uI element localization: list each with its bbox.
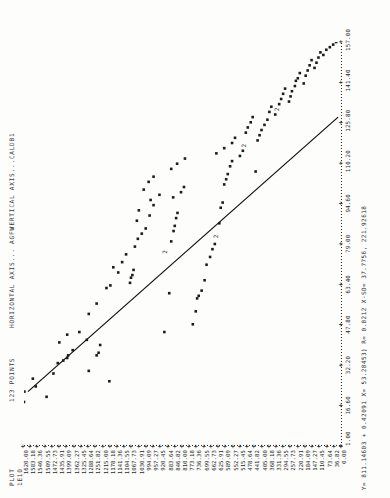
data-point [32,377,35,380]
data-point [34,385,37,388]
x-tick-label: 16.60 [345,396,351,414]
data-point [109,284,112,287]
y-tick-label: 1472.73 [53,450,59,474]
y-tick-label: 736.36 [197,450,203,471]
data-point [223,183,226,186]
y-tick-label: 1509.55 [46,450,52,474]
data-point [170,168,173,171]
data-point [231,160,234,163]
y-tick-mark: + [93,444,98,448]
data-point [288,100,291,103]
data-point [203,279,206,282]
point-count-label: 123 POINTS [8,358,15,402]
y-tick-label: 1362.27 [75,450,81,474]
data-point [225,178,228,181]
data-point [152,204,155,207]
data-point [319,51,322,54]
y-tick-label: 699.55 [205,450,211,471]
data-point [313,67,316,70]
y-tick-label: 1215.00 [104,450,110,474]
data-point [221,201,224,204]
y-tick-label: 1435.91 [60,450,66,474]
y-tick-label: 773.18 [190,450,196,471]
data-point-multi: 2 [240,144,247,148]
data-point [317,56,320,59]
data-point [197,294,200,297]
scatter-layer: 2222 [24,42,342,446]
data-point [112,266,115,269]
data-point [175,217,178,220]
data-point [108,380,111,383]
y-tick-label: 662.73 [212,450,218,471]
x-tick-label: 125.80 [345,110,351,132]
data-point [308,64,311,67]
data-point [295,80,298,83]
data-point [71,349,74,352]
y-tick-label: 368.18 [270,450,276,471]
data-point [258,134,261,137]
y-tick-label: 1104.55 [125,450,131,474]
y-tick-mark: + [252,444,257,448]
data-point [24,390,26,393]
y-tick-label: 1325.45 [82,450,88,474]
plot-label: PLOT [8,468,15,486]
data-point [289,95,292,98]
y-tick-label: 1288.64 [89,450,95,474]
y-tick-label: 625.91 [219,450,225,471]
data-point [226,173,229,176]
data-point [158,193,161,196]
data-point [268,111,271,114]
data-point [105,287,108,290]
y-tick-mark: + [202,444,207,448]
data-point [231,142,234,145]
x-tick-label: 79.00 [345,235,351,253]
y-tick-label: 846.82 [176,450,182,471]
x-tick-label: 141.40 [345,69,351,91]
data-point [87,370,90,373]
y-tick-mark: + [64,444,69,448]
data-point [172,196,175,199]
y-tick-label: 1178.18 [111,450,117,474]
data-point [134,245,137,248]
data-point [298,72,301,75]
x-tick-mark: + [339,323,344,327]
y-tick-mark: + [158,444,163,448]
data-point [322,54,325,57]
data-point [274,113,277,116]
data-point [278,103,281,106]
x-tick-mark: + [339,242,344,246]
data-point [149,199,152,202]
data-point [263,124,266,127]
y-tick-label: 184.09 [306,450,312,471]
data-point [200,289,203,292]
data-point [131,274,134,277]
y-tick-label: 36.82 [335,450,341,467]
data-point [66,333,69,336]
data-point [147,181,150,184]
data-point [152,175,155,178]
y-tick-label: 1583.18 [31,450,37,474]
data-point [209,256,212,259]
data-point [144,227,147,230]
data-point [86,339,89,342]
x-tick-label: 63.40 [345,275,351,293]
x-tick-mark: + [339,161,344,165]
y-tick-mark: + [72,444,77,448]
data-point [176,162,179,165]
y-tick-label: 1067.73 [132,450,138,474]
data-point [211,248,214,251]
y-tick-label: 1546.36 [38,450,44,474]
y-tick-label: 883.64 [169,450,175,471]
data-point [183,186,186,189]
y-tick-label: 957.27 [154,450,160,471]
data-point [280,98,283,101]
data-point [99,344,102,347]
y-tick-mark: + [166,444,171,448]
data-point [315,61,318,64]
data-point [234,137,237,140]
data-point [52,372,55,375]
y-tick-label: 1399.09 [67,450,73,474]
data-point [251,116,254,119]
y-tick-label: 0.00 [342,450,348,464]
regression-line [28,117,338,392]
